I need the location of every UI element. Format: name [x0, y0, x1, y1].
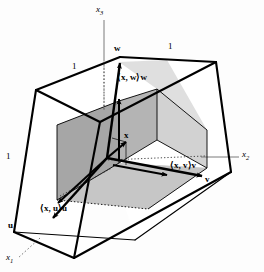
edge-length-left-label: 1: [6, 152, 11, 161]
w-vector-label: w: [114, 44, 121, 53]
component-v-label: ⟨x, v⟩v: [170, 161, 196, 170]
x2-axis-label: x2: [242, 150, 249, 161]
x1-axis-label: x1: [6, 253, 13, 264]
component-u-label: ⟨x, u⟩u: [40, 204, 67, 213]
x3-axis-label: x3: [96, 5, 103, 16]
vector-projection-diagram: [0, 0, 264, 272]
component-w-label: ⟨x, w⟩w: [117, 73, 147, 82]
u-vector-label: u: [8, 221, 13, 230]
x-vector-label: x: [124, 131, 129, 140]
edge-length-top-right-label: 1: [168, 42, 173, 51]
edge-length-top-left-label: 1: [72, 62, 77, 71]
figure-canvas: x3 x2 x1 w v u x ⟨x, w⟩w ⟨x, v⟩v ⟨x, u⟩u…: [0, 0, 264, 272]
v-vector-label: v: [205, 175, 210, 184]
